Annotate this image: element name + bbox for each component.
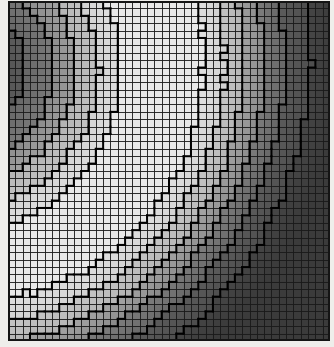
- figure-right-margin: [330, 0, 334, 347]
- figure-left-margin: [0, 0, 8, 347]
- figure-top-margin: [0, 0, 334, 1]
- figure-canvas: [0, 0, 334, 347]
- heatmap-surface: [8, 1, 330, 341]
- heatmap-plot-area: [8, 1, 330, 341]
- figure-bottom-margin: [0, 341, 334, 347]
